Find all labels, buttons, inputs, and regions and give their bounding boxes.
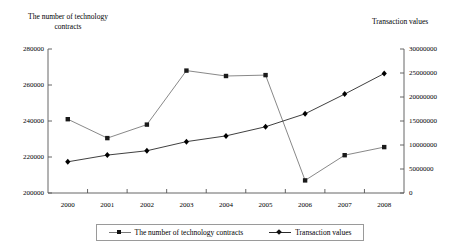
right-tick-label: 10000000 [409,141,461,149]
right-tick-label: 25000000 [409,69,461,77]
x-tick-label: 2006 [288,201,322,209]
legend-square-marker-icon [109,228,131,237]
series-2 [65,70,387,164]
series-1 [66,68,387,182]
right-tick-label: 5000000 [409,165,461,173]
legend-entry-2[interactable]: Transaction values [269,228,351,237]
legend-label: The number of technology contracts [133,228,244,237]
x-tick-label: 2005 [249,201,283,209]
chart-legend: The number of technology contractsTransa… [96,224,364,241]
legend-entry-1[interactable]: The number of technology contracts [109,228,244,237]
x-tick-label: 2008 [367,201,401,209]
chart-container: The number of technology contracts Trans… [0,0,461,252]
right-tick-label: 20000000 [409,93,461,101]
right-tick-label: 30000000 [409,45,461,53]
left-tick-label: 240000 [2,117,44,125]
x-tick-label: 2002 [130,201,164,209]
left-tick-label: 220000 [2,153,44,161]
x-tick-label: 2000 [51,201,85,209]
left-tick-label: 200000 [2,189,44,197]
legend-label: Transaction values [293,228,351,237]
right-tick-label: 0 [409,189,461,197]
right-tick-label: 15000000 [409,117,461,125]
x-tick-label: 2007 [328,201,362,209]
plot-area [0,0,461,252]
x-tick-label: 2001 [90,201,124,209]
left-tick-label: 280000 [2,45,44,53]
x-tick-label: 2003 [169,201,203,209]
legend-diamond-marker-icon [269,228,291,237]
left-tick-label: 260000 [2,81,44,89]
x-tick-label: 2004 [209,201,243,209]
